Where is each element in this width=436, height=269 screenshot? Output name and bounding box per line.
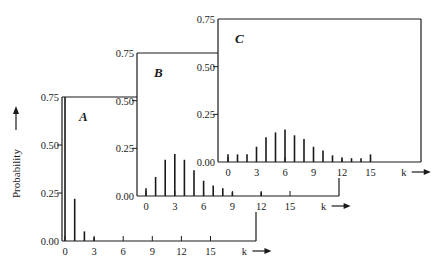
figure-canvas: Probability 0.000.250.500.7503691215kA0.… xyxy=(0,0,436,269)
x-axis-arrow-icon xyxy=(252,248,271,254)
x-tick-label: 9 xyxy=(311,167,316,178)
x-tick-label: 9 xyxy=(230,201,235,212)
x-tick-label: 3 xyxy=(91,246,96,257)
panel-label-b: B xyxy=(153,65,163,80)
probability-distribution-figure: Probability 0.000.250.500.7503691215kA0.… xyxy=(0,0,436,269)
x-axis-label: k xyxy=(242,246,248,257)
x-tick-label: 9 xyxy=(150,246,155,257)
y-tick-label: 0.00 xyxy=(41,236,59,247)
x-axis-arrow-icon xyxy=(332,203,351,209)
x-tick-label: 15 xyxy=(365,167,376,178)
x-axis-label: k xyxy=(321,201,327,212)
y-tick-label: 0.25 xyxy=(41,188,59,199)
x-tick-label: 0 xyxy=(143,201,148,212)
x-tick-label: 12 xyxy=(256,201,267,212)
x-tick-label: 6 xyxy=(201,201,206,212)
x-axis-label: k xyxy=(401,167,407,178)
x-tick-label: 3 xyxy=(172,201,177,212)
x-tick-label: 0 xyxy=(62,246,67,257)
panel-c: 0.000.250.500.7503691215kC xyxy=(197,14,431,178)
x-tick-label: 15 xyxy=(205,246,216,257)
y-tick-label: 0.50 xyxy=(197,62,215,73)
x-tick-label: 12 xyxy=(337,167,348,178)
y-tick-label: 0.75 xyxy=(41,92,59,103)
x-axis-arrow-icon xyxy=(412,169,431,175)
x-tick-label: 6 xyxy=(282,167,287,178)
y-tick-label: 0.50 xyxy=(41,140,59,151)
x-tick-label: 15 xyxy=(285,201,296,212)
y-tick-label: 0.00 xyxy=(197,157,215,168)
y-tick-label: 0.75 xyxy=(197,14,215,25)
y-axis-label: Probability xyxy=(10,149,22,198)
y-axis-label-group: Probability xyxy=(10,106,22,198)
y-tick-label: 0.50 xyxy=(116,96,134,107)
y-tick-label: 0.00 xyxy=(116,191,134,202)
panel-label-c: C xyxy=(235,31,244,46)
x-tick-label: 6 xyxy=(121,246,126,257)
y-tick-label: 0.25 xyxy=(116,143,134,154)
panel-label-a: A xyxy=(78,109,88,124)
y-tick-label: 0.75 xyxy=(116,48,134,59)
y-axis-arrow-icon xyxy=(13,106,19,130)
y-tick-label: 0.25 xyxy=(197,109,215,120)
x-tick-label: 12 xyxy=(176,246,187,257)
x-tick-label: 3 xyxy=(254,167,259,178)
x-tick-label: 0 xyxy=(225,167,230,178)
